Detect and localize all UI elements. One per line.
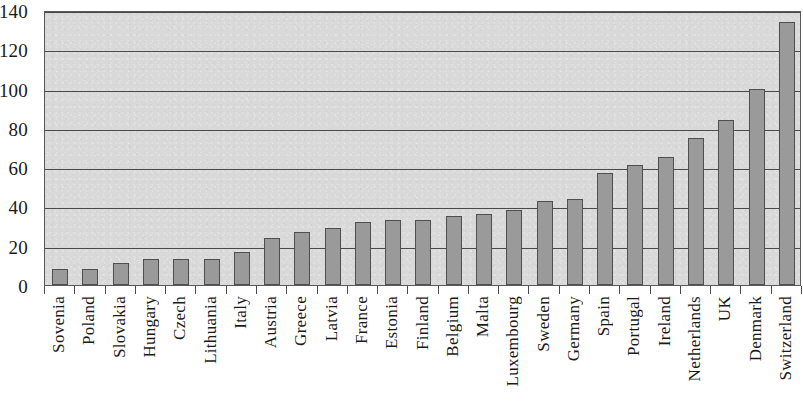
bar[interactable]	[264, 238, 280, 285]
x-tick	[74, 286, 75, 294]
x-axis-label: Czech	[171, 296, 188, 340]
x-axis-label: Finland	[414, 296, 431, 350]
plot-area	[44, 11, 801, 286]
bar-slot	[651, 12, 681, 285]
x-tick	[438, 286, 439, 294]
bar[interactable]	[658, 157, 674, 285]
bar-series	[45, 12, 800, 285]
bar[interactable]	[204, 259, 220, 285]
x-axis-label: Italy	[232, 296, 249, 329]
y-axis: 020406080100120140	[0, 0, 36, 295]
bar[interactable]	[415, 220, 431, 285]
bar[interactable]	[627, 165, 643, 285]
bar[interactable]	[749, 89, 765, 285]
bar[interactable]	[82, 269, 98, 285]
bar[interactable]	[143, 259, 159, 285]
y-tick-label: 80	[9, 119, 28, 138]
x-tick	[195, 286, 196, 294]
bar[interactable]	[718, 120, 734, 285]
bar-slot	[560, 12, 590, 285]
bar-slot	[227, 12, 257, 285]
x-axis-label: Sweden	[535, 296, 552, 352]
bar-slot	[287, 12, 317, 285]
bar[interactable]	[597, 173, 613, 285]
bar-slot	[348, 12, 378, 285]
x-tick	[44, 286, 45, 294]
bar[interactable]	[294, 232, 310, 285]
x-axis-label: Austria	[262, 296, 279, 348]
x-axis-label: Belgium	[444, 296, 461, 357]
bar-slot	[257, 12, 287, 285]
x-tick	[256, 286, 257, 294]
bar-slot	[711, 12, 741, 285]
bar[interactable]	[325, 228, 341, 285]
x-axis-label: Lithuania	[202, 296, 219, 364]
bar-slot	[318, 12, 348, 285]
bar-slot	[196, 12, 226, 285]
bar-slot	[469, 12, 499, 285]
x-axis-label: Greece	[292, 296, 309, 346]
x-axis-label: Malta	[474, 296, 491, 337]
bar[interactable]	[476, 214, 492, 285]
bar[interactable]	[173, 259, 189, 285]
y-tick-label: 40	[9, 198, 28, 217]
bar[interactable]	[537, 201, 553, 285]
x-tick	[559, 286, 560, 294]
x-tick	[135, 286, 136, 294]
x-tick	[801, 286, 802, 294]
y-tick-label: 20	[9, 237, 28, 256]
x-tick	[771, 286, 772, 294]
bar-slot	[741, 12, 771, 285]
bar[interactable]	[688, 138, 704, 285]
x-tick	[165, 286, 166, 294]
x-tick	[226, 286, 227, 294]
bar-slot	[408, 12, 438, 285]
x-tick	[650, 286, 651, 294]
bar[interactable]	[113, 263, 129, 285]
x-axis-label: France	[353, 296, 370, 344]
y-tick-label: 100	[0, 80, 28, 99]
x-tick	[468, 286, 469, 294]
y-tick-label: 140	[0, 2, 28, 21]
x-tick	[589, 286, 590, 294]
bar[interactable]	[779, 22, 795, 285]
x-axis-label: Portugal	[625, 296, 642, 356]
bar-slot	[378, 12, 408, 285]
bar[interactable]	[446, 216, 462, 285]
x-axis-label: Denmark	[747, 296, 764, 361]
bar[interactable]	[385, 220, 401, 285]
x-axis-label: Sovenia	[50, 296, 67, 353]
x-tick	[347, 286, 348, 294]
bar[interactable]	[355, 222, 371, 285]
y-tick-label: 60	[9, 159, 28, 178]
x-axis-label: Hungary	[141, 296, 158, 358]
bar-slot	[166, 12, 196, 285]
bar-slot	[136, 12, 166, 285]
bar[interactable]	[52, 269, 68, 285]
y-tick-label: 120	[0, 41, 28, 60]
bar-slot	[439, 12, 469, 285]
x-tick	[407, 286, 408, 294]
bar-slot	[772, 12, 801, 285]
bar[interactable]	[506, 210, 522, 285]
x-axis-label: Ireland	[656, 296, 673, 346]
x-tick	[680, 286, 681, 294]
bar-slot	[75, 12, 105, 285]
bar-slot	[620, 12, 650, 285]
x-axis-label: Switzerland	[777, 296, 794, 381]
bar-slot	[681, 12, 711, 285]
x-axis-label: Estonia	[383, 296, 400, 349]
bar-slot	[45, 12, 75, 285]
x-tick	[710, 286, 711, 294]
bar[interactable]	[567, 199, 583, 285]
x-axis-label: Netherlands	[686, 296, 703, 381]
x-axis-label: Slovakia	[111, 296, 128, 358]
bar-slot	[590, 12, 620, 285]
bar[interactable]	[234, 252, 250, 285]
y-tick-label: 0	[18, 277, 28, 296]
x-tick	[105, 286, 106, 294]
x-tick	[528, 286, 529, 294]
x-axis-label: Germany	[565, 296, 582, 361]
x-tick	[740, 286, 741, 294]
bar-slot	[499, 12, 529, 285]
